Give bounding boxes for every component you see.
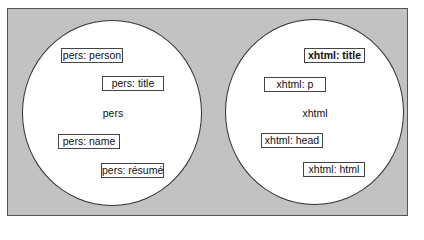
- namespace-label-xhtml: xhtml: [302, 107, 327, 119]
- element-box-xhtml-title: xhtml: title: [304, 48, 365, 63]
- element-box-xhtml-p: xhtml: p: [264, 77, 326, 92]
- element-box-xhtml-head: xhtml: head: [261, 133, 323, 148]
- element-box-xhtml-html: xhtml: html: [303, 162, 365, 177]
- element-box-pers-name: pers: name: [58, 134, 120, 149]
- element-box-pers-person: pers: person: [61, 48, 123, 63]
- namespace-label-pers: pers: [103, 107, 123, 119]
- element-box-pers-title: pers: title: [102, 76, 164, 91]
- element-box-pers-resume: pers: résumé: [101, 163, 164, 178]
